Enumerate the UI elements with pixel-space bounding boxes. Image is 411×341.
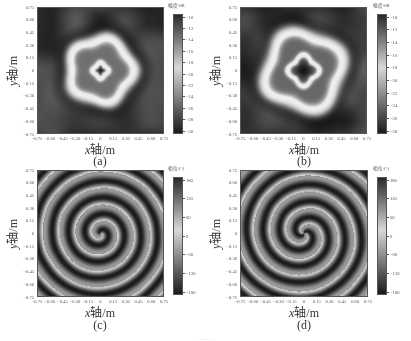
- y-tick-label: −0.45: [219, 269, 237, 274]
- colorbar-a: [173, 14, 183, 134]
- y-tick-label: −0.45: [219, 106, 237, 111]
- y-tick-label: 0.45: [219, 193, 237, 198]
- colorbar-tick-label: −20: [186, 72, 193, 77]
- colorbar-title: 相位/(°): [168, 165, 184, 171]
- colorbar-tick-label: −180: [186, 290, 195, 295]
- y-tick-label: 0.75: [219, 5, 237, 10]
- colorbar-tick-label: 180: [390, 178, 397, 183]
- colorbar-tick-label: 120: [186, 196, 193, 201]
- colorbar-tick-label: −12: [390, 27, 397, 32]
- colorbar-tick-label: −18: [390, 65, 397, 70]
- colorbar-tick-label: −16: [390, 53, 397, 58]
- y-axis-title: y轴/m: [206, 214, 224, 254]
- colorbar-tick-label: 180: [186, 178, 193, 183]
- panel-label-a: (a): [85, 154, 115, 169]
- colorbar-tick-label: −60: [390, 252, 397, 257]
- x-tick-label: 0.75: [157, 299, 171, 304]
- y-tick-label: 0.60: [16, 17, 34, 22]
- colorbar-tick-label: −10: [186, 15, 193, 20]
- x-tick-label: 0.75: [360, 136, 374, 141]
- panel-label-b: (b): [289, 154, 319, 169]
- heatmap-plot-b: [240, 7, 367, 134]
- colorbar-tick-label: −10: [390, 15, 397, 20]
- x-tick-label: 0.75: [361, 299, 375, 304]
- heatmap-plot-c: [37, 170, 164, 297]
- colorbar-canvas: [174, 178, 182, 294]
- y-tick-label: −0.30: [16, 256, 34, 261]
- heatmap-canvas-d: [241, 171, 367, 296]
- heatmap-canvas-c: [38, 171, 163, 296]
- heatmap-plot-a: [37, 7, 164, 134]
- colorbar-tick-label: −24: [390, 103, 397, 108]
- y-tick-label: −0.60: [219, 119, 237, 124]
- colorbar-b: [377, 14, 387, 134]
- y-tick-label: −0.60: [16, 119, 34, 124]
- colorbar-tick-label: 60: [186, 215, 191, 220]
- colorbar-tick-label: −18: [186, 60, 193, 65]
- y-tick-label: −0.45: [16, 106, 34, 111]
- colorbar-canvas: [378, 178, 386, 294]
- y-tick-label: 0.45: [16, 30, 34, 35]
- colorbar-tick-label: −60: [186, 252, 193, 257]
- y-tick-label: 0.30: [219, 206, 237, 211]
- y-tick-label: 0.75: [219, 168, 237, 173]
- y-axis-title: y轴/m: [206, 51, 224, 91]
- y-tick-label: 0.30: [219, 43, 237, 48]
- colorbar-tick-label: 60: [390, 215, 395, 220]
- colorbar-tick-label: −12: [186, 26, 193, 31]
- colorbar-tick-label: −22: [390, 91, 397, 96]
- heatmap-canvas-a: [38, 8, 163, 133]
- colorbar-tick-label: 120: [390, 196, 397, 201]
- y-tick-label: 0.75: [16, 5, 34, 10]
- y-tick-label: −0.60: [219, 282, 237, 287]
- y-tick-label: 0.60: [16, 180, 34, 185]
- panel-label-d: (d): [289, 318, 319, 333]
- colorbar-tick-label: −28: [186, 117, 193, 122]
- colorbar-title: 幅度/dB: [373, 2, 390, 8]
- y-tick-label: 0.60: [219, 17, 237, 22]
- colorbar-d: [377, 177, 387, 295]
- y-tick-label: 0.75: [16, 168, 34, 173]
- y-tick-label: −0.30: [219, 93, 237, 98]
- colorbar-canvas: [378, 15, 386, 133]
- y-tick-label: 0.45: [16, 193, 34, 198]
- colorbar-tick-label: −26: [186, 106, 193, 111]
- colorbar-tick-label: 0: [186, 234, 188, 239]
- colorbar-tick-label: −180: [390, 290, 399, 295]
- colorbar-tick-label: −22: [186, 83, 193, 88]
- colorbar-tick-label: −26: [390, 116, 397, 121]
- colorbar-c: [173, 177, 183, 295]
- y-tick-label: −0.30: [219, 256, 237, 261]
- y-axis-title: y轴/m: [3, 51, 21, 91]
- colorbar-tick-label: −120: [390, 271, 399, 276]
- panel-label-c: (c): [85, 318, 115, 333]
- colorbar-tick-label: −14: [390, 40, 397, 45]
- colorbar-tick-label: −30: [186, 129, 193, 134]
- colorbar-tick-label: −120: [186, 271, 195, 276]
- colorbar-tick-label: −28: [390, 129, 397, 134]
- colorbar-title: 幅度/dB: [168, 2, 185, 8]
- y-tick-label: 0.30: [16, 206, 34, 211]
- y-tick-label: −0.60: [16, 282, 34, 287]
- heatmap-canvas-b: [241, 8, 366, 133]
- colorbar-canvas: [174, 15, 182, 133]
- colorbar-tick-label: −20: [390, 78, 397, 83]
- figure-caption: ……: [0, 333, 411, 341]
- y-tick-label: −0.45: [16, 269, 34, 274]
- colorbar-tick-label: −16: [186, 49, 193, 54]
- y-tick-label: 0.60: [219, 180, 237, 185]
- y-tick-label: −0.30: [16, 93, 34, 98]
- colorbar-tick-label: −24: [186, 94, 193, 99]
- colorbar-tick-label: −14: [186, 37, 193, 42]
- x-tick-label: 0.75: [157, 136, 171, 141]
- y-axis-title: y轴/m: [3, 214, 21, 254]
- y-tick-label: 0.30: [16, 43, 34, 48]
- heatmap-plot-d: [240, 170, 368, 297]
- colorbar-title: 相位/(°): [373, 165, 389, 171]
- y-tick-label: 0.45: [219, 30, 237, 35]
- colorbar-tick-label: 0: [390, 234, 392, 239]
